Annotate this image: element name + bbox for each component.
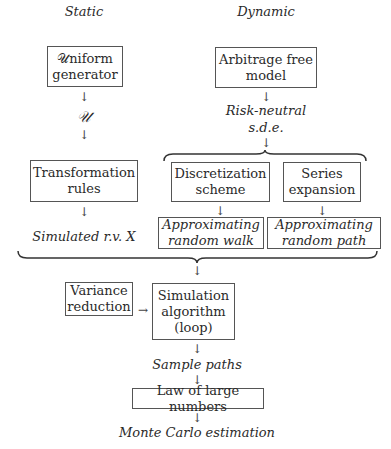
arbitrage-line2: model (246, 68, 286, 84)
top-brace (163, 150, 368, 162)
simulation-line3: (loop) (174, 320, 212, 336)
down-arrow-icon: ↓ (78, 92, 90, 102)
discretization-line2: scheme (195, 182, 245, 198)
simulated-rv-label: Simulated r.v. X (24, 229, 144, 245)
down-arrow-icon: ↓ (191, 266, 203, 276)
series-line1: Series (301, 166, 342, 182)
law-label: Law of large numbers (133, 383, 263, 415)
down-arrow-icon: ↓ (78, 130, 90, 140)
arbitrage-line1: Arbitrage free (219, 52, 313, 68)
transformation-rules-box: Transformation rules (30, 160, 138, 202)
transformation-rules-line2: rules (67, 181, 100, 197)
discretization-scheme-box: Discretization scheme (171, 162, 270, 202)
approx-path-line2: random path (282, 233, 367, 249)
bottom-brace (17, 251, 379, 264)
down-arrow-icon: ↓ (260, 138, 272, 148)
approx-walk-line1: Approximating (162, 217, 260, 233)
series-line2: expansion (289, 182, 356, 198)
sample-paths-label: Sample paths (147, 357, 247, 373)
approx-random-path-box: Approximating random path (267, 217, 381, 249)
down-arrow-icon: ↓ (214, 206, 226, 216)
risk-neutral-label: Risk-neutral (216, 103, 316, 119)
arbitrage-free-model-box: Arbitrage free model (215, 47, 317, 88)
down-arrow-icon: ↓ (316, 206, 328, 216)
simulation-line2: algorithm (161, 304, 225, 320)
uniform-generator-line1: 𝒰niform (57, 51, 113, 67)
simulation-algorithm-box: Simulation algorithm (loop) (152, 283, 235, 340)
dynamic-column-heading: Dynamic (231, 4, 301, 20)
uniform-generator-line2: generator (52, 67, 117, 83)
approx-walk-line2: random walk (168, 233, 254, 249)
static-column-heading: Static (54, 4, 114, 20)
down-arrow-icon: ↓ (191, 413, 203, 423)
right-arrow-icon: → (136, 305, 150, 315)
discretization-line1: Discretization (174, 166, 266, 182)
uniform-symbol: 𝒰 (64, 109, 104, 125)
variance-line1: Variance (70, 283, 127, 299)
approx-path-line1: Approximating (275, 217, 373, 233)
monte-carlo-estimation-label: Monte Carlo estimation (117, 425, 277, 441)
down-arrow-icon: ↓ (78, 207, 90, 217)
down-arrow-icon: ↓ (260, 92, 272, 102)
approx-random-walk-box: Approximating random walk (158, 217, 264, 249)
variance-line2: reduction (67, 299, 130, 315)
sde-label: s.d.e. (216, 120, 316, 136)
uniform-generator-box: 𝒰niform generator (47, 46, 123, 87)
law-of-large-numbers-box: Law of large numbers (132, 388, 264, 409)
variance-reduction-box: Variance reduction (65, 282, 133, 316)
transformation-rules-line1: Transformation (33, 165, 135, 181)
simulation-line1: Simulation (158, 288, 229, 304)
down-arrow-icon: ↓ (191, 344, 203, 354)
series-expansion-box: Series expansion (283, 162, 361, 202)
